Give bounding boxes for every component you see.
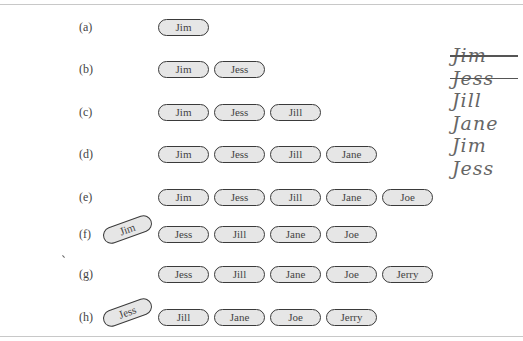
queue-row-d: (d) Jim Jess Jill Jane — [0, 145, 523, 165]
handwritten-notes: Jim Jess Jill Jane Jim Jess — [452, 44, 522, 179]
stray-mark — [62, 255, 65, 258]
handwritten-word: Jim — [452, 44, 522, 67]
row-label: (e) — [79, 190, 92, 205]
queue-item: Jim — [158, 189, 209, 206]
queue-item: Jerry — [326, 309, 377, 326]
queue-item: Joe — [326, 266, 377, 283]
queue-row-a: (a) Jim — [0, 18, 523, 38]
queue-item: Jill — [270, 189, 321, 206]
queue-item: Jerry — [382, 266, 433, 283]
row-label: (a) — [79, 20, 92, 35]
dequeued-item: Jess — [101, 296, 155, 329]
handwritten-word: Jess — [452, 67, 522, 90]
handwritten-word: Jim — [452, 134, 522, 157]
queue-row-g: (g) Jess Jill Jane Joe Jerry — [0, 265, 523, 285]
queue-item: Jess — [158, 266, 209, 283]
handwritten-word: Jess — [452, 157, 522, 180]
queue-row-b: (b) Jim Jess — [0, 60, 523, 80]
queue-item: Jess — [214, 104, 265, 121]
row-label: (d) — [79, 147, 93, 162]
queue-item: Jill — [270, 104, 321, 121]
queue-item: Jim — [158, 146, 209, 163]
queue-item: Jess — [214, 61, 265, 78]
queue-item: Jess — [214, 146, 265, 163]
queue-item: Jill — [214, 266, 265, 283]
queue-item: Jess — [214, 189, 265, 206]
queue-item: Jane — [326, 146, 377, 163]
bottom-rule — [0, 336, 523, 337]
queue-item: Jim — [158, 61, 209, 78]
queue-item: Joe — [270, 309, 321, 326]
queue-item: Joe — [326, 226, 377, 243]
queue-item: Jill — [270, 146, 321, 163]
queue-row-f: (f) Jim Jess Jill Jane Joe — [0, 225, 523, 245]
queue-item: Jill — [214, 226, 265, 243]
queue-item: Joe — [382, 189, 433, 206]
queue-item: Jane — [214, 309, 265, 326]
queue-item: Jane — [270, 266, 321, 283]
queue-row-c: (c) Jim Jess Jill — [0, 103, 523, 123]
queue-item: Jim — [158, 19, 209, 36]
handwritten-word: Jane — [452, 112, 522, 135]
queue-item: Jane — [326, 189, 377, 206]
top-rule — [0, 4, 523, 5]
queue-item: Jane — [270, 226, 321, 243]
queue-row-e: (e) Jim Jess Jill Jane Joe — [0, 188, 523, 208]
row-label: (b) — [79, 62, 93, 77]
queue-item: Jess — [158, 226, 209, 243]
queue-item: Jill — [158, 309, 209, 326]
row-label: (c) — [79, 105, 92, 120]
dequeued-item: Jim — [101, 213, 155, 246]
row-label: (f) — [79, 227, 91, 242]
queue-row-h: (h) Jess Jill Jane Joe Jerry — [0, 308, 523, 328]
queue-item: Jim — [158, 104, 209, 121]
row-label: (g) — [79, 267, 93, 282]
handwritten-word: Jill — [452, 89, 522, 112]
row-label: (h) — [79, 310, 93, 325]
